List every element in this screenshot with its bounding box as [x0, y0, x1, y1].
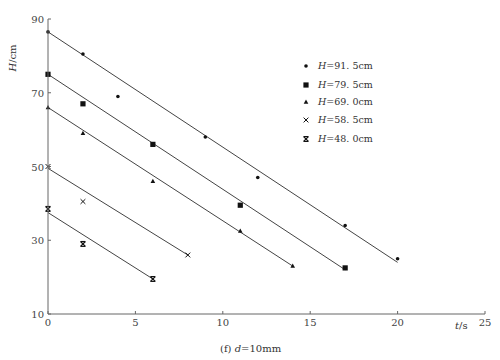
- y-tick-label: 30: [31, 235, 44, 246]
- fit-line: [48, 213, 153, 279]
- dot-marker-icon: [343, 224, 347, 228]
- x-axis-label: t/s: [455, 320, 468, 331]
- legend-item: H=48. 0cm: [304, 133, 373, 144]
- legend-item: H=79. 5cm: [303, 79, 372, 90]
- bowtie-marker-icon: [304, 137, 309, 142]
- legend-label: H=79. 5cm: [317, 79, 373, 90]
- square-marker-icon: [150, 142, 155, 147]
- bowtie-marker-icon: [81, 242, 86, 247]
- x-marker-icon: [185, 253, 190, 258]
- legend-item: H=69. 0cm: [304, 96, 373, 107]
- dot-marker-icon: [304, 64, 308, 68]
- y-tick-label: 50: [31, 162, 44, 173]
- y-axis-label: H/cm: [7, 44, 18, 73]
- x-tick-label: 0: [45, 317, 51, 328]
- x-marker-icon: [81, 199, 86, 204]
- series-3: [46, 164, 191, 257]
- dot-marker-icon: [256, 176, 260, 180]
- triangle-marker-icon: [304, 99, 309, 103]
- legend: H=91. 5cmH=79. 5cmH=69. 0cmH=58. 5cmH=48…: [303, 60, 372, 144]
- dot-marker-icon: [116, 95, 120, 99]
- y-tick-label: 90: [31, 14, 44, 25]
- legend-item: H=58. 5cm: [304, 114, 373, 125]
- legend-label: H=69. 0cm: [317, 96, 373, 107]
- dot-marker-icon: [396, 257, 400, 261]
- x-tick-label: 15: [304, 317, 317, 328]
- triangle-marker-icon: [151, 179, 156, 183]
- series-4: [46, 207, 156, 282]
- legend-label: H=48. 0cm: [317, 133, 373, 144]
- x-tick-label: 10: [216, 317, 229, 328]
- bowtie-marker-icon: [150, 277, 155, 282]
- legend-label: H=91. 5cm: [317, 60, 373, 71]
- x-tick-label: 25: [479, 317, 492, 328]
- square-marker-icon: [80, 101, 85, 106]
- chart: 0510152025 1030507090 H/cm t/s H=91. 5cm…: [0, 0, 500, 360]
- x-tick-label: 20: [391, 317, 404, 328]
- dot-marker-icon: [204, 135, 208, 139]
- legend-label: H=58. 5cm: [317, 114, 373, 125]
- legend-item: H=91. 5cm: [304, 60, 373, 71]
- y-tick-label: 10: [31, 309, 44, 320]
- x-marker-icon: [304, 118, 309, 123]
- square-marker-icon: [238, 203, 243, 208]
- y-tick-label: 70: [31, 88, 44, 99]
- series-1: [45, 72, 347, 271]
- dot-marker-icon: [81, 52, 85, 56]
- x-tick-label: 5: [132, 317, 138, 328]
- square-marker-icon: [303, 82, 308, 87]
- triangle-marker-icon: [290, 263, 295, 267]
- fit-line: [48, 168, 188, 255]
- figure-caption: (f) d=10mm: [220, 343, 282, 354]
- square-marker-icon: [343, 265, 348, 270]
